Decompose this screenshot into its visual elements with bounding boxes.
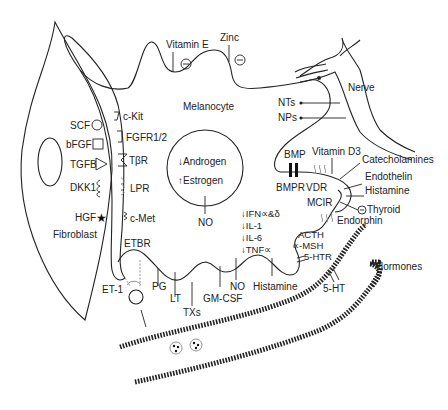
scf-label: SCF	[70, 120, 90, 131]
acth-label: ACTH	[298, 229, 324, 240]
triangle-icon	[96, 158, 107, 170]
msh-label: ∝-MSH	[292, 240, 323, 251]
mcir-label: MCIR	[307, 197, 333, 208]
nps-label: NPs	[278, 112, 297, 123]
lpr-receptor-icon	[121, 178, 124, 195]
et1-label: ET-1	[102, 284, 124, 295]
c-kit-label: c-Kit	[123, 111, 143, 122]
tnf-label: ↓TNF∝	[241, 244, 271, 255]
et1-input: ET-1	[102, 260, 146, 327]
melanocyte-nucleus: ↓Androgen ↑Estrogen NO	[167, 130, 243, 228]
coil-icon	[97, 180, 100, 197]
etbr-label: ETBR	[124, 238, 151, 249]
fibroblast-label: Fibroblast	[53, 229, 97, 240]
ifn-label: ↓IFN∝&δ	[241, 208, 280, 219]
blood-cell-icon	[190, 339, 202, 351]
fibroblast-nucleus	[38, 138, 62, 186]
dkk1-label: DKK1	[70, 182, 97, 193]
bmpr-bar-icon	[289, 163, 292, 177]
vitamin-d3-label: Vitamin D3	[312, 146, 361, 157]
vdr-receptor-icon	[314, 165, 325, 173]
cytokine-list: ↓IFN∝&δ ↓IL-1 ↓IL-6 ↓TNF∝	[241, 208, 280, 255]
bmpr-bar-icon	[295, 163, 298, 177]
right-receptors: BMP BMPR Vitamin D3 VDR Catecholamines E…	[276, 146, 434, 294]
fgfr-receptor-icon	[117, 131, 122, 142]
zinc-input: Zinc	[220, 32, 245, 65]
c-kit-receptor-icon	[114, 112, 119, 120]
nerve-signals: NTs NPs	[278, 97, 346, 123]
melanocyte-regulation-diagram: Nerve NTs NPs Vitamin E Zinc Melanocyte …	[0, 0, 448, 410]
melanocyte-label: Melanocyte	[183, 101, 235, 112]
hormones-label: Hormones	[376, 261, 422, 272]
fibroblast-factors: SCF bFGF TGFB DKK1 HGF ★ Fibroblast	[53, 120, 107, 240]
il6-label: ↓IL-6	[241, 232, 262, 243]
bmp-label: BMP	[284, 149, 306, 160]
c-met-label: c-Met	[130, 213, 155, 224]
il1-label: ↓IL-1	[241, 220, 262, 231]
nerve-fiber: Nerve	[295, 38, 415, 160]
pg-label: PG	[152, 281, 167, 292]
histamine-right-label: Histamine	[365, 185, 410, 196]
nts-label: NTs	[278, 97, 295, 108]
nerve-terminal-dot	[317, 76, 321, 80]
gm-csf-label: GM-CSF	[203, 293, 242, 304]
star-icon: ★	[96, 211, 107, 225]
androgen-label: ↓Androgen	[178, 156, 226, 167]
no-label: NO	[230, 281, 245, 292]
lt-label: LT	[170, 293, 181, 304]
vdr-label: VDR	[306, 182, 327, 193]
lpr-label: LPR	[130, 183, 149, 194]
histamine-bottom-label: Histamine	[253, 281, 298, 292]
tgfb-label: TGFB	[70, 159, 97, 170]
endorphin-label: Endorphin	[337, 215, 383, 226]
diagram-canvas: Nerve NTs NPs Vitamin E Zinc Melanocyte …	[0, 0, 448, 410]
txs-label: TXs	[183, 307, 201, 318]
catecholamines-label: Catecholamines	[362, 154, 434, 165]
fgfr-label: FGFR1/2	[126, 132, 168, 143]
tbr-receptor-icon	[118, 154, 127, 166]
tbr-label: TβR	[129, 155, 148, 166]
endothelin-label: Endothelin	[365, 171, 412, 182]
nerve-label: Nerve	[348, 82, 375, 93]
nucleus-no-label: NO	[198, 217, 213, 228]
c-met-receptor-icon	[124, 212, 127, 220]
hgf-label: HGF	[75, 212, 96, 223]
5ht-label: 5-HT	[323, 283, 345, 294]
et1-vesicle-icon	[129, 290, 143, 304]
zinc-label: Zinc	[220, 32, 239, 43]
5htr-label: 5-HTR	[304, 251, 332, 262]
bmpr-label: BMPR	[276, 182, 305, 193]
vitamin-e-label: Vitamin E	[166, 39, 209, 50]
square-icon	[93, 139, 103, 149]
bfgf-label: bFGF	[66, 139, 92, 150]
estrogen-label: ↑Estrogen	[178, 175, 223, 186]
blood-cell-icon	[170, 342, 182, 354]
circle-icon	[92, 120, 102, 130]
thyroid-label: Thyroid	[367, 204, 400, 215]
